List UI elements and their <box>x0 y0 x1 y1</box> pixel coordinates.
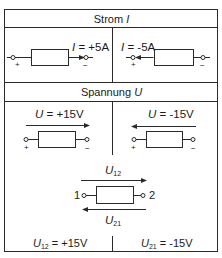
spannung-right-minus: − <box>191 145 196 153</box>
spannung-left-minus: − <box>85 145 90 153</box>
spannung-right-label: U = -15V <box>148 108 194 120</box>
strom-right-plus: + <box>131 61 136 69</box>
result-u21: U21 = -15V <box>141 237 193 249</box>
spannung-right-plus: + <box>131 144 136 152</box>
strom-left-plus: + <box>15 61 20 69</box>
terminal-1-label: 1 <box>74 189 80 201</box>
spannung-right-circuit <box>132 127 196 148</box>
strom-symbol: I <box>126 13 129 25</box>
strom-right-label: I = -5A <box>121 41 155 53</box>
spannung-left-plus: + <box>24 144 29 152</box>
result-u12: U12 = +15V <box>33 237 87 249</box>
strom-left-minus: − <box>83 62 88 70</box>
strom-right-minus: − <box>200 62 205 70</box>
spannung-symbol: U <box>134 86 142 98</box>
u12-arrow-label: U12 <box>105 164 121 176</box>
strom-header: Strom I <box>5 13 218 25</box>
terminal-2-label: 2 <box>149 189 155 201</box>
spannung-left-label: U = +15V <box>35 108 84 120</box>
spannung-header: Spannung U <box>5 86 218 98</box>
spannung-left-circuit <box>24 126 89 148</box>
strom-left-label: I = +5A <box>72 41 109 53</box>
u21-arrow-label: U21 <box>105 214 121 226</box>
bottom-circuit <box>81 181 146 210</box>
